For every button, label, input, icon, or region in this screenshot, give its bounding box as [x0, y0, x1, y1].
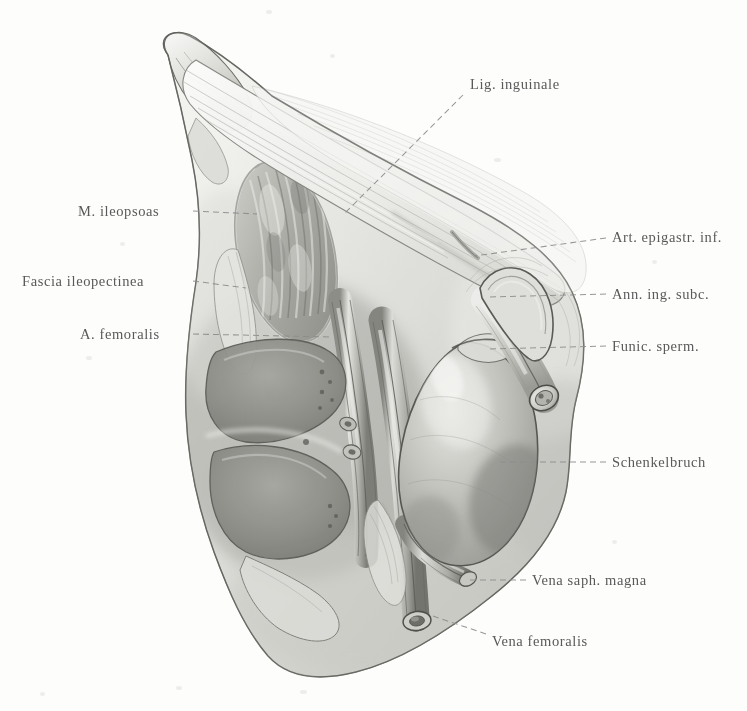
paper-speck: [494, 158, 501, 162]
label-vena-femoralis: Vena femoralis: [492, 634, 588, 649]
paper-speck: [266, 10, 272, 14]
paper-speck: [612, 540, 617, 544]
paper-speck: [40, 692, 45, 696]
label-fascia-ileopectinea: Fascia ileopectinea: [22, 274, 144, 289]
label-lig-inguinale: Lig. inguinale: [470, 77, 560, 92]
label-funic-sperm: Funic. sperm.: [612, 339, 699, 354]
label-vena-saph-magna: Vena saph. magna: [532, 573, 647, 588]
paper-speck: [330, 54, 335, 58]
label-m-ileopsoas: M. ileopsoas: [78, 204, 159, 219]
paper-speck: [120, 242, 125, 246]
label-a-femoralis: A. femoralis: [80, 327, 160, 342]
paper-speck: [176, 686, 182, 690]
anatomical-plate: M. ileopsoas Fascia ileopectinea A. femo…: [0, 0, 747, 711]
anatomical-figure: [0, 0, 747, 711]
label-art-epigastr-inf: Art. epigastr. inf.: [612, 230, 722, 245]
paper-speck: [652, 260, 657, 264]
label-ann-ing-subc: Ann. ing. subc.: [612, 287, 709, 302]
paper-speck: [300, 690, 307, 694]
label-schenkelbruch: Schenkelbruch: [612, 455, 706, 470]
paper-speck: [86, 356, 92, 360]
